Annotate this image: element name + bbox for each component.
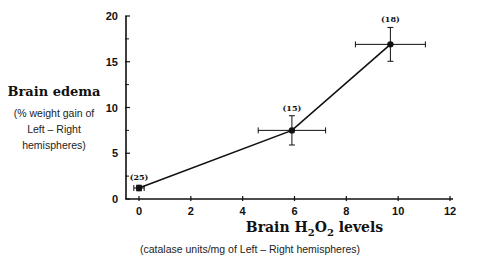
data-line xyxy=(139,44,390,188)
y-axis-subtitle-line-3: hemispheres) xyxy=(0,137,108,153)
x-tick-label: 2 xyxy=(188,205,194,217)
x-axis-title-part: Brain H xyxy=(246,219,308,235)
sample-size-label: (25) xyxy=(130,172,149,182)
data-point xyxy=(289,127,295,133)
y-axis-title: Brain edema xyxy=(0,84,108,99)
x-axis-subtitle: (catalase units/mg of Left – Right hemis… xyxy=(140,243,360,255)
x-tick-label: 12 xyxy=(444,205,456,217)
x-tick-label: 8 xyxy=(343,205,349,217)
x-tick-label: 6 xyxy=(291,205,297,217)
sample-size-label: (18) xyxy=(381,14,400,24)
data-point xyxy=(387,41,393,47)
data-point xyxy=(136,185,142,191)
y-axis-subtitle-line-1: (% weight gain of xyxy=(0,105,108,121)
y-axis-label: Brain edema (% weight gain of Left – Rig… xyxy=(0,84,108,153)
x-axis-title-subscript: 2 xyxy=(327,227,334,238)
x-axis-title: Brain H2O2 levels xyxy=(0,219,479,238)
x-tick-label: 4 xyxy=(240,205,247,217)
y-tick-label: 0 xyxy=(112,193,118,205)
x-tick-label: 10 xyxy=(392,205,404,217)
x-tick-label: 0 xyxy=(136,205,142,217)
y-tick-label: 20 xyxy=(106,10,118,22)
y-tick-label: 5 xyxy=(112,147,118,159)
x-axis-title-part: levels xyxy=(334,219,383,235)
x-axis-title-part: O xyxy=(315,219,327,235)
y-tick-label: 15 xyxy=(106,56,118,68)
y-axis-subtitle-line-2: Left – Right xyxy=(0,121,108,137)
x-axis-title-subscript: 2 xyxy=(308,227,315,238)
sample-size-label: (15) xyxy=(283,103,302,113)
